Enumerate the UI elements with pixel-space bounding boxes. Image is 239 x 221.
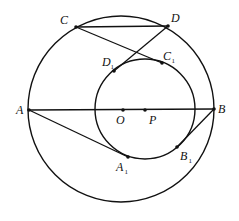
label-b: B: [218, 102, 226, 116]
point-o: [121, 108, 125, 112]
label-o: O: [116, 113, 125, 127]
label-a: A: [15, 103, 24, 117]
diagram-canvas: CDD1C1ABOPA1B1: [0, 0, 239, 221]
segment-AA1: [29, 110, 128, 157]
label-a1: A: [115, 160, 124, 174]
label-b1-subscript: 1: [189, 157, 193, 165]
label-d1: D: [101, 55, 111, 69]
label-p: P: [148, 113, 157, 127]
point-p: [143, 108, 147, 112]
label-b1: B: [180, 149, 188, 163]
segments-group: [29, 26, 214, 157]
geometry-diagram: CDD1C1ABOPA1B1: [0, 0, 239, 221]
point-a: [27, 108, 31, 112]
segment-DD1: [114, 26, 168, 71]
point-c: [74, 25, 78, 29]
label-d: D: [170, 11, 180, 25]
label-c: C: [60, 13, 69, 27]
segment-CC1: [76, 27, 162, 63]
point-a1: [126, 155, 130, 159]
point-d: [166, 24, 170, 28]
point-b1: [175, 145, 179, 149]
label-d1-subscript: 1: [111, 63, 115, 71]
labels-group: CDD1C1ABOPA1B1: [15, 11, 226, 176]
label-c1-subscript: 1: [172, 57, 176, 65]
point-b: [212, 107, 216, 111]
segment-CD: [76, 26, 168, 27]
label-a1-subscript: 1: [125, 168, 129, 176]
